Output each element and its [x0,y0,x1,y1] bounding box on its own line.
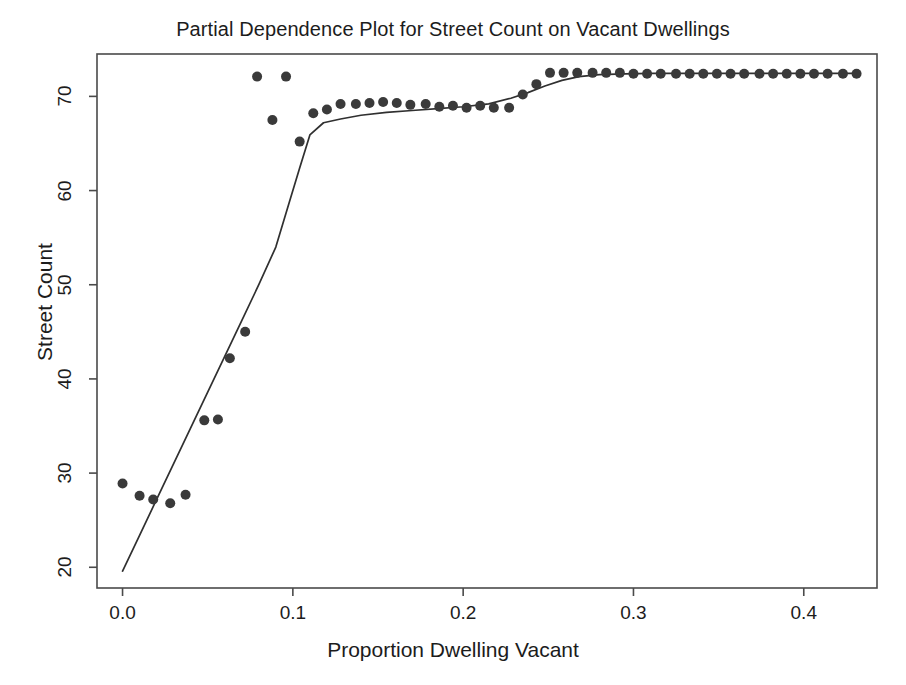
data-point [768,69,778,79]
data-point [213,414,223,424]
data-point [322,105,332,115]
x-tick-label: 0.3 [620,602,646,624]
data-point [642,69,652,79]
data-point [148,494,158,504]
data-point [504,103,514,113]
data-point [421,99,431,109]
data-point [838,69,848,79]
data-point [852,69,862,79]
x-tick-label: 0.0 [109,602,135,624]
data-point [364,98,374,108]
data-point [601,68,611,78]
data-point [572,68,582,78]
data-point [685,69,695,79]
data-point [448,101,458,111]
partial-dependence-chart: Partial Dependence Plot for Street Count… [0,0,906,685]
data-point [726,69,736,79]
data-point [545,68,555,78]
data-point [336,99,346,109]
data-point [475,101,485,111]
data-point [712,69,722,79]
data-point [531,79,541,89]
y-tick-label: 70 [54,80,76,112]
data-point [518,90,528,100]
y-tick-label: 20 [54,551,76,583]
data-point [462,103,472,113]
data-point [181,490,191,500]
data-point [378,97,388,107]
data-points [118,68,862,508]
data-point [135,491,145,501]
data-point [588,68,598,78]
data-point [809,69,819,79]
data-point [628,69,638,79]
axis-ticks [89,96,804,596]
y-tick-label: 40 [54,363,76,395]
data-point [281,72,291,82]
data-point [252,72,262,82]
data-point [656,69,666,79]
data-point [739,69,749,79]
data-point [118,478,128,488]
data-point [559,68,569,78]
y-tick-label: 60 [54,175,76,207]
data-point [782,69,792,79]
data-point [351,99,361,109]
y-tick-label: 50 [54,269,76,301]
data-point [240,327,250,337]
data-point [615,68,625,78]
data-point [795,69,805,79]
data-point [489,103,499,113]
x-tick-label: 0.4 [791,602,817,624]
data-point [392,98,402,108]
data-point [165,498,175,508]
fitted-curve [123,73,857,571]
data-point [754,69,764,79]
data-point [199,415,209,425]
plot-canvas [0,0,906,685]
y-tick-label: 30 [54,457,76,489]
data-point [434,102,444,112]
x-tick-label: 0.1 [280,602,306,624]
data-point [225,353,235,363]
data-point [698,69,708,79]
data-point [267,115,277,125]
plot-frame [97,54,877,588]
data-point [405,100,415,110]
x-tick-label: 0.2 [450,602,476,624]
data-point [308,108,318,118]
data-point [295,137,305,147]
data-point [823,69,833,79]
data-point [671,69,681,79]
